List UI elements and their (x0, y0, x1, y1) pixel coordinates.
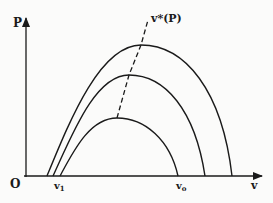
locus-label: v*(P) (150, 12, 182, 25)
origin-label: O (10, 177, 20, 191)
x-axis-label: v (250, 179, 258, 192)
locus-dashed-line (117, 20, 148, 118)
tick-label-v1: v1 (53, 180, 65, 193)
pv-diagram: P v O v1 vo v*(P) (0, 0, 273, 203)
tick-label-vo: vo (175, 180, 187, 193)
diagram-canvas: P v O v1 vo v*(P) (0, 0, 273, 203)
y-axis-label: P (13, 16, 22, 30)
middle-curve (53, 75, 205, 176)
outer-curve (47, 45, 232, 176)
inner-curve (60, 118, 178, 176)
